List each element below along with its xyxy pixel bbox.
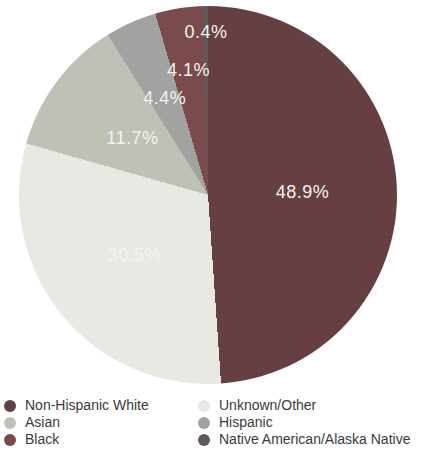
legend-swatch-icon [198,400,210,412]
legend-item: Unknown/Other [198,397,410,414]
legend-label: Unknown/Other [219,397,316,414]
legend-swatch-icon [4,400,16,412]
legend-swatch-icon [198,434,210,446]
legend-label: Non-Hispanic White [25,397,149,414]
legend-column: Non-Hispanic WhiteAsianBlack [4,397,149,448]
legend-item: Black [4,431,149,448]
legend-swatch-icon [198,417,210,429]
legend-item: Non-Hispanic White [4,397,149,414]
legend-label: Hispanic [219,414,273,431]
pie-slice-label: 4.1% [167,59,210,80]
legend-item: Hispanic [198,414,410,431]
legend-column: Unknown/OtherHispanicNative American/Ala… [198,397,410,448]
legend-label: Asian [25,414,60,431]
legend-item: Native American/Alaska Native [198,431,410,448]
legend-label: Black [25,431,59,448]
legend-label: Native American/Alaska Native [219,431,410,448]
legend-swatch-icon [4,434,16,446]
pie-chart-figure: 48.9%30.5%11.7%4.4%4.1%0.4% Non-Hispanic… [0,0,432,461]
pie-slice-label: 4.4% [143,88,186,109]
pie-slice-label: 48.9% [276,181,330,202]
legend-swatch-icon [4,417,16,429]
legend-item: Asian [4,414,149,431]
pie-slice-label: 0.4% [184,22,227,43]
pie-slice-label: 30.5% [108,244,162,265]
pie-slice-label: 11.7% [106,128,158,149]
